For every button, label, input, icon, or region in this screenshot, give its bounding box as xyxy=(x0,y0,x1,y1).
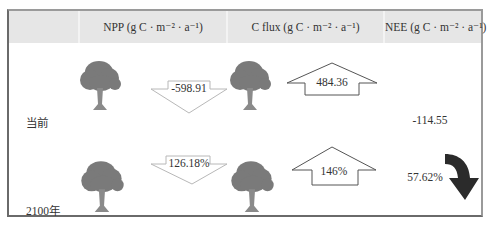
table-header: NPP (g C · m⁻² · a⁻¹) C flux (g C · m⁻² … xyxy=(9,11,481,43)
tree-icon xyxy=(229,56,273,112)
c-flux-value-current: 484.36 xyxy=(305,76,359,88)
row-label-2100: 2100年 xyxy=(26,202,60,218)
header-empty xyxy=(9,11,78,43)
tree-icon xyxy=(79,156,127,214)
header-c-flux: C flux (g C · m⁻² · a⁻¹) xyxy=(228,11,383,43)
c-flux-value-2100: 146% xyxy=(312,165,356,177)
tree-icon xyxy=(79,56,123,112)
tree-icon xyxy=(229,156,277,214)
header-nee: NEE (g C · m⁻² · a⁻¹) xyxy=(385,11,481,43)
curved-down-arrow-icon xyxy=(443,150,483,202)
nee-value-current: -114.55 xyxy=(402,114,458,126)
npp-value-2100: 126.18% xyxy=(164,157,214,169)
npp-value-current: -598.91 xyxy=(168,82,210,94)
header-npp: NPP (g C · m⁻² · a⁻¹) xyxy=(80,11,226,43)
row-label-current: 当前 xyxy=(26,114,48,130)
